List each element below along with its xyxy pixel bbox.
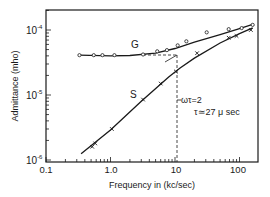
data-point: [176, 44, 179, 47]
annotation-tau-value: τ≃27 μ sec: [194, 107, 240, 117]
data-point: [141, 53, 144, 56]
data-point: [185, 40, 188, 43]
data-point: [165, 49, 168, 52]
data-point: [205, 31, 208, 34]
annotation-arrow: [165, 55, 177, 62]
x-tick-label-10: 10: [171, 164, 182, 175]
x-tick-label-1.0: 1.0: [104, 164, 117, 175]
series-g: [78, 23, 254, 57]
data-point: [195, 51, 199, 55]
data-point: [92, 54, 95, 57]
axis-ticks: [46, 10, 240, 162]
x-tick-label-100: 100: [230, 164, 246, 175]
data-point: [240, 26, 243, 29]
data-point: [113, 54, 116, 57]
series-s: [81, 28, 253, 154]
data-point: [227, 28, 230, 31]
x-tick-label-0.1: 0.1: [39, 164, 52, 175]
data-point: [101, 54, 104, 57]
x-axis-tick-labels: 0.1 1.0 10 100: [39, 164, 246, 175]
x-axis-title: Frequency in (kc/sec): [109, 180, 195, 190]
admittance-chart: 10-4 10-5 10-6 0.1 1.0 10 100 Frequency …: [0, 0, 270, 197]
y-tick-label-1e-4: 10-4: [26, 24, 43, 36]
y-tick-label-1e-5: 10-5: [26, 89, 43, 101]
data-point: [251, 23, 254, 26]
s-curve: [81, 28, 253, 154]
annotation-omega-tau: ωτ=2: [181, 95, 202, 105]
y-axis-tick-labels: 10-4 10-5 10-6: [26, 24, 43, 166]
data-point: [78, 54, 81, 57]
data-point: [141, 98, 145, 102]
y-axis-title: Admittance (mho): [10, 50, 20, 121]
data-point: [156, 50, 159, 53]
series-label-g: G: [131, 39, 139, 50]
series-label-s: S: [130, 89, 137, 100]
